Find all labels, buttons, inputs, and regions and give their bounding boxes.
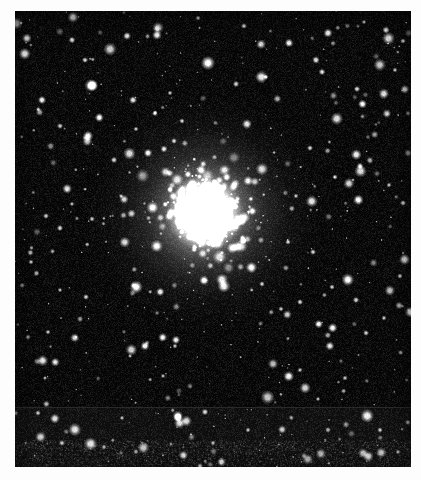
photographic-plate-page [0, 0, 421, 480]
plate-caption-margin [0, 468, 421, 480]
plate-image-frame [15, 11, 411, 467]
star-field-canvas [15, 11, 411, 467]
